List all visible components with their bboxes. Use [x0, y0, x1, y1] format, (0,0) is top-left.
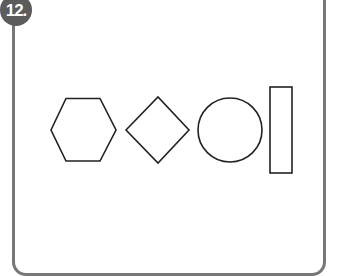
- diamond-shape: [126, 97, 189, 163]
- rectangle-shape: [270, 87, 292, 173]
- hexagon-shape: [51, 99, 116, 162]
- circle-shape: [198, 98, 262, 162]
